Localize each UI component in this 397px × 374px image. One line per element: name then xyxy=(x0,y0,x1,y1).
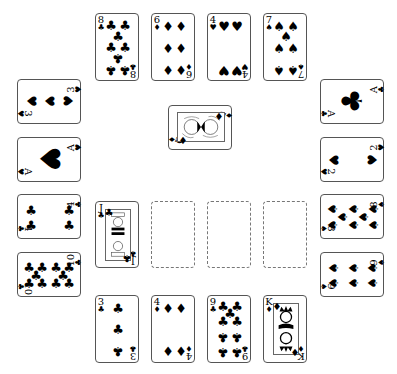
diamond-icon: ♦ xyxy=(175,64,188,77)
card-7-spades[interactable]: 7♠ 7♠ ♠ ♠ ♠ ♠ ♠ ♠ ♠ xyxy=(263,13,307,81)
spade-icon: ♠ xyxy=(366,277,379,290)
card-4-diamonds[interactable]: 4♦ 4♦ ♦ ♦ ♦ ♦ xyxy=(151,295,195,363)
spade-icon: ♠ xyxy=(287,64,300,77)
diamond-icon: ♦ xyxy=(162,302,175,315)
card-9-spades[interactable]: 9♠ 9♠ ♠ ♠ ♠ ♠ ♠ ♠ xyxy=(320,252,384,297)
card-index-top: A♥ xyxy=(66,144,83,152)
card-queen-diamonds[interactable]: Q♦ Q♦ ♦ ♦ xyxy=(168,105,232,150)
card-index-bottom: 3♣ xyxy=(129,344,137,361)
diamond-icon: ♦ xyxy=(177,134,190,147)
card-3-clubs[interactable]: 3♣ 3♣ ♣ ♣ ♣ xyxy=(95,295,139,363)
spade-icon: ♠ xyxy=(366,262,379,275)
spade-icon: ♠ xyxy=(347,277,360,290)
club-icon: ♣ xyxy=(119,64,132,77)
club-icon: ♣ xyxy=(25,219,38,232)
card-index-top: A♣ xyxy=(369,86,386,94)
empty-card-slot[interactable] xyxy=(151,201,195,268)
spade-icon: ♠ xyxy=(326,219,339,232)
card-4-clubs[interactable]: 4♣ 4♣ ♣ ♣ ♣ ♣ xyxy=(17,194,81,239)
club-icon: ♣ xyxy=(103,206,116,219)
heart-icon: ♥ xyxy=(62,95,75,108)
club-icon: ♣ xyxy=(121,252,134,265)
heart-icon: ♥ xyxy=(366,154,379,167)
card-index-top: 6♦ xyxy=(153,15,161,32)
card-2-hearts[interactable]: 2♥ 2♥ ♥ ♥ xyxy=(320,137,384,182)
spade-icon: ♠ xyxy=(347,262,360,275)
card-index-bottom: 2♥ xyxy=(319,168,336,176)
club-icon: ♣ xyxy=(50,277,63,290)
diamond-icon: ♦ xyxy=(162,64,175,77)
diamond-icon: ♦ xyxy=(175,302,188,315)
spade-icon: ♠ xyxy=(347,219,360,232)
spade-icon: ♠ xyxy=(287,42,300,55)
card-index-top: 2♥ xyxy=(369,144,386,152)
club-icon: ♣ xyxy=(63,219,76,232)
card-10-clubs[interactable]: 10♣ 10♣ ♣ ♣ ♣ ♣ ♣ ♣ ♣ ♣ ♣ ♣ xyxy=(17,252,81,297)
club-icon: ♣ xyxy=(339,87,367,115)
diamond-icon: ♦ xyxy=(175,345,188,358)
card-3-hearts[interactable]: 3♥ 3♥ ♥ ♥ ♥ xyxy=(17,79,81,124)
club-icon: ♣ xyxy=(112,345,125,358)
card-index-bottom: 3♥ xyxy=(16,110,33,118)
spade-icon: ♠ xyxy=(273,64,286,77)
card-ace-clubs[interactable]: A♣ A♣ ♣ xyxy=(320,79,384,124)
club-icon: ♣ xyxy=(231,346,244,359)
club-icon: ♣ xyxy=(231,331,244,344)
club-icon: ♣ xyxy=(112,302,125,315)
club-icon: ♣ xyxy=(63,277,76,290)
diamond-icon: ♦ xyxy=(289,346,302,359)
card-8-spades[interactable]: 8♠ 8♠ ♠ ♠ ♠ ♠ ♠ ♠ ♠ ♠ xyxy=(320,194,384,239)
spade-icon: ♠ xyxy=(327,277,340,290)
diamond-icon: ♦ xyxy=(213,110,226,123)
club-icon: ♣ xyxy=(217,346,230,359)
card-index-top: 3♣ xyxy=(97,297,105,314)
diamond-icon: ♦ xyxy=(162,345,175,358)
spade-icon: ♠ xyxy=(367,219,380,232)
diamond-icon: ♦ xyxy=(271,300,284,313)
diamond-icon: ♦ xyxy=(162,42,175,55)
card-9-clubs[interactable]: 9♣ 9♣ ♣ ♣ ♣ ♣ ♣ ♣ ♣ ♣ ♣ xyxy=(207,295,251,363)
empty-card-slot[interactable] xyxy=(263,201,307,268)
card-jack-clubs[interactable]: J♣ J♣ ♣ ♣ xyxy=(95,201,139,268)
card-ace-hearts[interactable]: A♥ A♥ ♥ xyxy=(17,137,81,182)
diamond-icon: ♦ xyxy=(162,20,175,33)
heart-icon: ♥ xyxy=(43,95,56,108)
spade-icon: ♠ xyxy=(327,262,340,275)
club-icon: ♣ xyxy=(63,204,76,217)
heart-icon: ♥ xyxy=(35,145,63,173)
empty-card-slot[interactable] xyxy=(207,201,251,268)
heart-icon: ♥ xyxy=(218,64,231,77)
heart-icon: ♥ xyxy=(231,64,244,77)
card-6-diamonds[interactable]: 6♦ 6♦ ♦ ♦ ♦ ♦ ♦ ♦ xyxy=(151,13,195,81)
heart-icon: ♥ xyxy=(327,154,340,167)
club-icon: ♣ xyxy=(23,277,36,290)
card-8-clubs[interactable]: 8♣ 8♣ ♣ ♣ ♣ ♣ ♣ ♣ ♣ ♣ xyxy=(95,13,139,81)
club-icon: ♣ xyxy=(36,277,49,290)
club-icon: ♣ xyxy=(217,331,230,344)
card-4-hearts[interactable]: 4♥ 4♥ ♥ ♥ ♥ ♥ xyxy=(207,13,251,81)
heart-icon: ♥ xyxy=(218,20,231,33)
card-index-top: 3♥ xyxy=(66,86,83,94)
spade-icon: ♠ xyxy=(273,42,286,55)
club-icon: ♣ xyxy=(105,64,118,77)
card-king-diamonds[interactable]: K♦ K♦ ♦ ♦ xyxy=(263,295,307,363)
heart-icon: ♥ xyxy=(231,20,244,33)
club-icon: ♣ xyxy=(217,315,230,328)
diamond-icon: ♦ xyxy=(175,42,188,55)
club-icon: ♣ xyxy=(25,204,38,217)
card-index-top: 4♦ xyxy=(153,297,161,314)
club-icon: ♣ xyxy=(231,315,244,328)
heart-icon: ♥ xyxy=(25,95,38,108)
card-index-top: 4♥ xyxy=(209,15,217,32)
card-index-bottom: A♣ xyxy=(319,110,336,118)
card-index-bottom: A♥ xyxy=(16,168,33,176)
diamond-icon: ♦ xyxy=(175,20,188,33)
club-icon: ♣ xyxy=(112,323,125,336)
